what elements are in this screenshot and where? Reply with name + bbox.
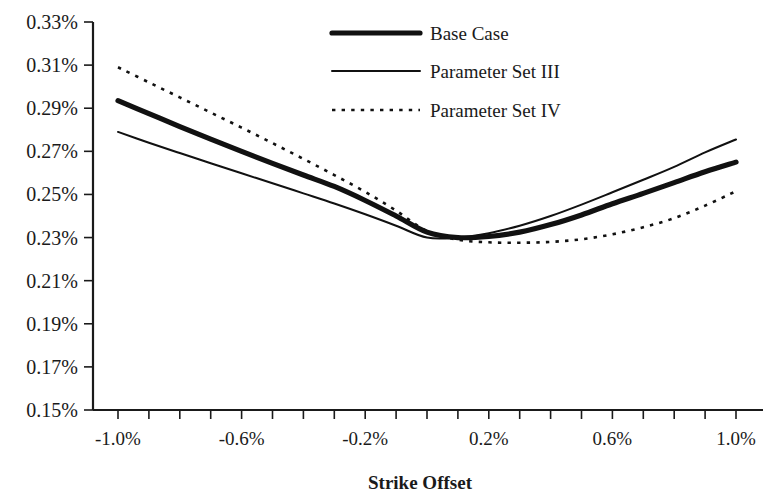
y-tick-label: 0.23% [26, 227, 78, 249]
series-line-parameter-set-iv [118, 67, 736, 242]
x-axis: -1.0%-0.6%-0.2%0.2%0.6%1.0% [93, 410, 763, 449]
x-tick-label: 0.2% [469, 428, 509, 449]
y-tick-group [84, 22, 93, 410]
chart-container: 0.33%0.31%0.29%0.27%0.25%0.23%0.21%0.19%… [0, 0, 763, 494]
x-axis-title: Strike Offset [368, 472, 473, 493]
y-tick-label: 0.33% [26, 11, 78, 33]
x-tick-label: -1.0% [95, 428, 141, 449]
x-tick-label: -0.6% [219, 428, 265, 449]
line-chart: 0.33%0.31%0.29%0.27%0.25%0.23%0.21%0.19%… [0, 0, 763, 494]
y-tick-label: 0.29% [26, 97, 78, 119]
y-tick-label-group: 0.33%0.31%0.29%0.27%0.25%0.23%0.21%0.19%… [26, 11, 78, 421]
legend-label-parameter-set-iv: Parameter Set IV [430, 100, 561, 121]
x-tick-label: 0.6% [593, 428, 633, 449]
y-tick-label: 0.21% [26, 270, 78, 292]
y-tick-label: 0.27% [26, 140, 78, 162]
y-tick-label: 0.15% [26, 399, 78, 421]
legend-label-base-case: Base Case [430, 23, 509, 44]
x-minor-tick-group [118, 410, 736, 419]
y-tick-label: 0.25% [26, 183, 78, 205]
legend-label-parameter-set-iii: Parameter Set III [430, 61, 560, 82]
legend: Base Case Parameter Set III Parameter Se… [332, 23, 561, 121]
series-line-base-case [118, 101, 736, 238]
series-layer [118, 67, 736, 242]
y-tick-label: 0.19% [26, 313, 78, 335]
y-axis: 0.33%0.31%0.29%0.27%0.25%0.23%0.21%0.19%… [26, 11, 93, 421]
y-tick-label: 0.17% [26, 356, 78, 378]
x-tick-label-group: -1.0%-0.6%-0.2%0.2%0.6%1.0% [95, 428, 756, 449]
y-tick-label: 0.31% [26, 54, 78, 76]
x-tick-label: 1.0% [716, 428, 756, 449]
x-tick-label: -0.2% [342, 428, 388, 449]
series-line-parameter-set-iii [118, 132, 736, 239]
